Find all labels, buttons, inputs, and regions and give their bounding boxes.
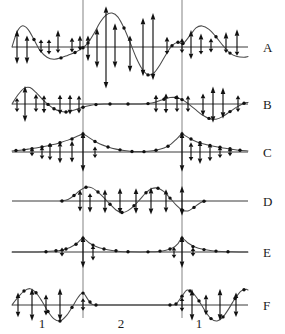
spin-arrow-head-down	[77, 109, 82, 113]
site-marker-d	[72, 194, 75, 197]
site-marker-e	[126, 250, 129, 253]
spin-arrow-head-up	[58, 288, 63, 295]
site-marker-a	[214, 35, 217, 38]
site-marker-f	[81, 291, 84, 294]
site-marker-e	[226, 250, 229, 253]
spin-arrow-head-down	[103, 208, 108, 213]
spin-arrow-head-down	[60, 253, 65, 257]
site-marker-f	[88, 300, 91, 303]
site-marker-d	[108, 203, 111, 206]
site-marker-c	[81, 132, 84, 135]
spin-arrow-head-down	[16, 312, 21, 318]
site-marker-d	[120, 211, 123, 214]
site-marker-c	[238, 149, 241, 152]
spin-arrow-head-down	[23, 116, 28, 123]
site-marker-d	[156, 187, 159, 190]
site-marker-b	[81, 106, 84, 109]
site-marker-a	[73, 51, 76, 54]
spin-arrow-head-down	[70, 158, 75, 163]
row-label-a: A	[263, 40, 283, 56]
site-marker-e	[81, 237, 84, 240]
spin-arrow-head-down	[208, 157, 213, 161]
spin-arrow-head-down	[81, 261, 86, 268]
site-marker-e	[74, 243, 77, 246]
site-marker-c	[40, 145, 43, 148]
region-label-1: 1	[30, 316, 54, 332]
spin-arrow-head-up	[86, 35, 91, 40]
spin-arrow-head-down	[149, 208, 154, 214]
spin-arrow-head-up	[103, 189, 108, 194]
spin-arrow-head-up	[186, 96, 191, 100]
spin-arrow-head-up	[199, 33, 204, 39]
spin-arrow-head-down	[58, 158, 63, 163]
site-marker-e	[54, 249, 57, 252]
spin-arrow-head-up	[78, 35, 83, 40]
spin-arrow-head-down	[180, 50, 185, 54]
site-marker-e	[191, 245, 194, 248]
spin-arrow-head-up	[39, 40, 44, 44]
spin-arrow-head-up	[218, 289, 223, 296]
spin-arrow-head-up	[134, 188, 139, 194]
site-marker-f	[197, 299, 200, 302]
spin-arrow-head-up	[189, 142, 194, 146]
spin-arrows	[15, 6, 241, 321]
spin-arrow-head-down	[47, 51, 52, 55]
site-marker-c	[48, 143, 51, 146]
spin-arrow-head-up	[180, 38, 185, 42]
site-marker-b	[228, 110, 231, 113]
site-marker-e	[180, 237, 183, 240]
spin-arrow-head-down	[39, 50, 44, 54]
site-marker-c	[118, 148, 121, 151]
wave-curve-c	[12, 134, 248, 152]
site-marker-c	[30, 147, 33, 150]
spin-arrow-head-down	[30, 153, 35, 157]
site-marker-c	[58, 141, 61, 144]
row-label-b: B	[263, 97, 283, 113]
site-marker-e	[91, 243, 94, 246]
spin-arrow-head-down	[165, 51, 170, 55]
spin-arrow-head-up	[154, 95, 159, 99]
spin-arrow-head-up	[118, 188, 123, 194]
spin-arrow-head-up	[44, 294, 49, 299]
spin-arrow-head-down	[175, 108, 180, 112]
spin-arrow-head-up	[180, 186, 185, 193]
spin-arrow-head-down	[151, 74, 156, 81]
site-marker-f	[94, 303, 97, 306]
site-marker-a	[176, 41, 179, 44]
spin-arrow-head-down	[201, 111, 206, 116]
spin-arrow-head-down	[191, 253, 196, 257]
spin-arrow-head-down	[91, 257, 96, 261]
spin-arrow-head-down	[199, 51, 204, 55]
spin-arrow-head-up	[58, 95, 63, 99]
spin-arrow-head-down	[40, 156, 45, 160]
site-marker-e	[146, 250, 149, 253]
spin-arrow-head-down	[56, 50, 61, 54]
spin-arrow-head-down	[88, 207, 93, 212]
spin-arrow-head-up	[70, 141, 75, 146]
site-marker-f	[70, 306, 73, 309]
spin-arrow-head-up	[201, 94, 206, 99]
spin-arrow-head-up	[81, 298, 86, 302]
spin-arrow-head-up	[25, 35, 30, 40]
spin-arrow-head-up	[211, 86, 216, 93]
site-marker-c	[142, 150, 145, 153]
spin-arrow-head-down	[180, 261, 185, 268]
wave-curve-e	[12, 238, 248, 252]
site-marker-c	[70, 137, 73, 140]
spin-arrow-head-down	[104, 82, 109, 89]
spin-arrow-head-up	[42, 95, 47, 99]
spin-arrow-head-down	[81, 307, 86, 311]
site-marker-d	[144, 191, 147, 194]
site-marker-a	[228, 51, 231, 54]
spin-arrow-head-down	[218, 155, 223, 159]
site-marker-d	[84, 186, 87, 189]
site-marker-d	[180, 208, 183, 211]
spin-arrow-head-down	[189, 54, 194, 60]
spin-arrow-head-up	[224, 32, 229, 39]
spin-arrow-head-down	[81, 165, 86, 172]
site-marker-c	[228, 147, 231, 150]
spin-arrow-head-down	[228, 153, 233, 157]
site-marker-b	[146, 102, 149, 105]
spin-arrow-head-down	[42, 109, 47, 113]
spin-arrow-head-down	[180, 308, 185, 312]
